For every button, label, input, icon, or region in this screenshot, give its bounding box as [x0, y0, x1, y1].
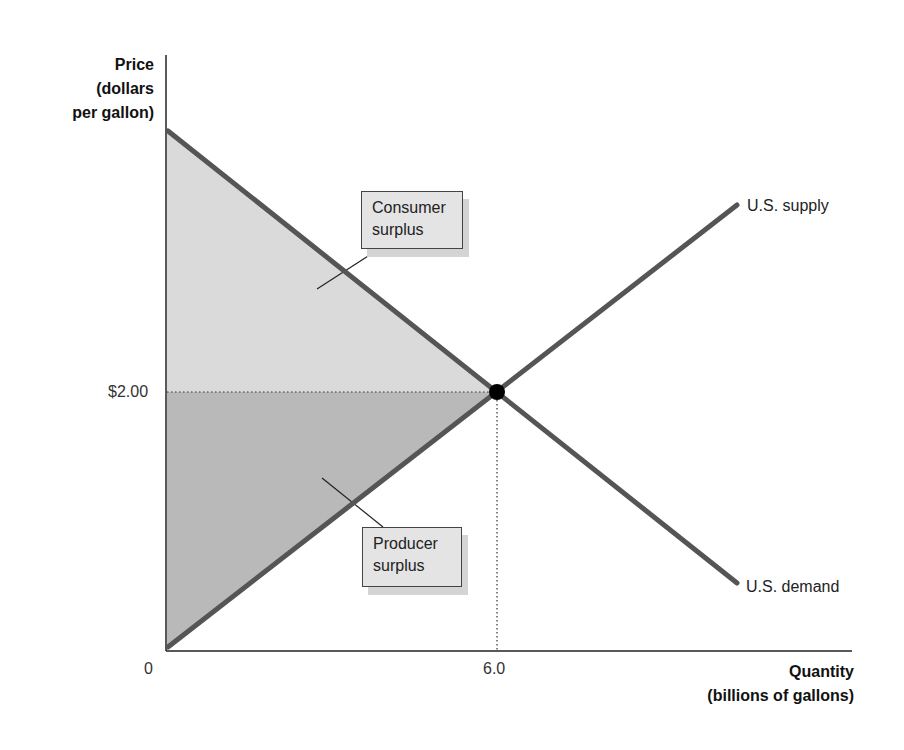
- demand-curve-label: U.S. demand: [746, 577, 839, 596]
- x-axis-title: Quantity (billions of gallons): [707, 660, 854, 708]
- y-axis-title: Price (dollars per gallon): [72, 53, 154, 125]
- producer-surplus-callout: Producer surplus: [362, 527, 462, 587]
- x-axis-title-line: (billions of gallons): [707, 684, 854, 708]
- consumer-surplus-callout: Consumer surplus: [361, 191, 463, 249]
- consumer-surplus-callout-line: surplus: [372, 219, 452, 241]
- consumer-surplus-callout-line: Consumer: [372, 197, 452, 219]
- x-axis-title-line: Quantity: [707, 660, 854, 684]
- origin-label: 0: [144, 659, 153, 678]
- price-tick-label: $2.00: [108, 382, 148, 401]
- y-axis-title-line: per gallon): [72, 101, 154, 125]
- producer-surplus-callout-line: surplus: [373, 555, 451, 577]
- quantity-tick-label: 6.0: [483, 659, 505, 678]
- producer-surplus-callout-line: Producer: [373, 533, 451, 555]
- y-axis-title-line: (dollars: [72, 77, 154, 101]
- equilibrium-point: [489, 384, 505, 400]
- supply-curve-label: U.S. supply: [747, 196, 829, 215]
- y-axis-title-line: Price: [72, 53, 154, 77]
